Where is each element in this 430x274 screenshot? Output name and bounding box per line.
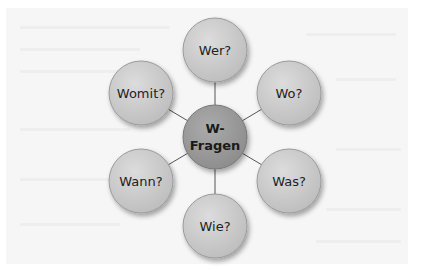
node-was: Was? bbox=[257, 149, 321, 213]
w-fragen-diagram: Wer? Wo? Was? Wie? Wann? Womit? W- Frage… bbox=[0, 0, 430, 274]
node-label: Wann? bbox=[119, 174, 162, 189]
node-label: Wie? bbox=[199, 219, 230, 234]
node-wie: Wie? bbox=[183, 194, 247, 258]
node-wo: Wo? bbox=[257, 61, 321, 125]
node-label: Wer? bbox=[199, 43, 231, 58]
node-label: Was? bbox=[272, 174, 306, 189]
node-label: Womit? bbox=[117, 86, 165, 101]
center-node: W- Fragen bbox=[183, 105, 247, 169]
node-womit: Womit? bbox=[109, 61, 173, 125]
center-label-line1: W- bbox=[205, 121, 224, 136]
node-wer: Wer? bbox=[183, 18, 247, 82]
node-wann: Wann? bbox=[109, 149, 173, 213]
node-label: Wo? bbox=[276, 86, 303, 101]
center-label-line2: Fragen bbox=[190, 138, 241, 153]
